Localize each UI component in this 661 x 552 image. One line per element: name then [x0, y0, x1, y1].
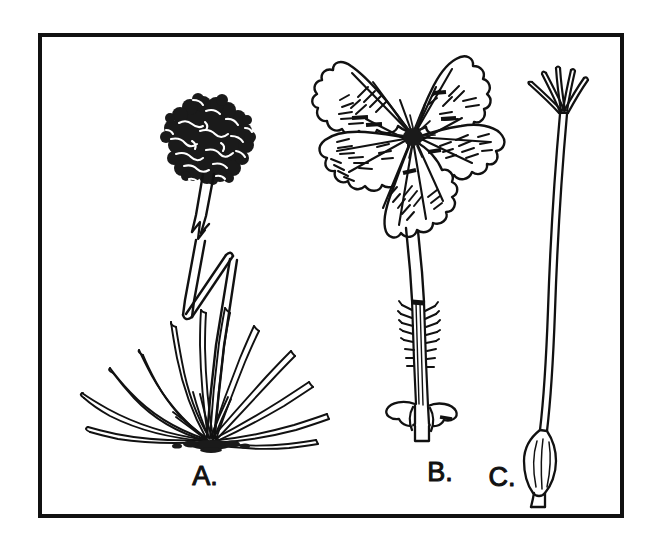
panel-b-label: B. — [427, 457, 453, 487]
panel-b-bract-accent — [440, 417, 452, 419]
panel-a-label: A. — [192, 461, 218, 491]
illustration-plate: A. — [0, 0, 661, 552]
panel-c-label: C. — [489, 462, 516, 492]
botanical-plate-svg: A. — [0, 0, 661, 552]
